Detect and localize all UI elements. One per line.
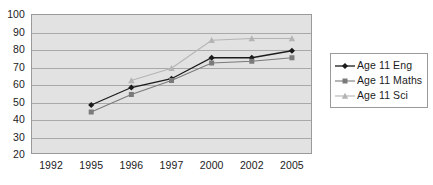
legend-item-label: Age 11 Sci <box>357 90 408 101</box>
data-point-marker <box>129 92 134 97</box>
series-line <box>91 58 292 112</box>
y-tick-label: 70 <box>13 61 25 72</box>
chart-legend: Age 11 EngAge 11 MathsAge 11 Sci <box>330 53 428 108</box>
y-tick-label: 30 <box>13 131 25 142</box>
x-tick-label: 1995 <box>79 160 103 171</box>
legend-item-label: Age 11 Maths <box>357 75 422 86</box>
series-line <box>91 51 292 105</box>
legend-item[interactable]: Age 11 Eng <box>333 58 424 73</box>
legend-diamond-icon <box>333 59 357 73</box>
data-point-marker <box>249 59 254 64</box>
data-point-marker <box>209 55 215 61</box>
data-point-marker <box>289 48 295 54</box>
x-tick-label: 1992 <box>39 160 63 171</box>
y-tick-label: 40 <box>13 114 25 125</box>
legend-triangle-icon <box>333 89 357 103</box>
data-point-marker <box>128 84 134 90</box>
data-point-marker <box>88 102 94 108</box>
y-tick-label: 80 <box>13 44 25 55</box>
y-tick-label: 20 <box>13 149 25 160</box>
legend-item[interactable]: Age 11 Sci <box>333 88 424 103</box>
series-layer <box>31 14 312 154</box>
x-tick-label: 2005 <box>280 160 304 171</box>
data-point-marker <box>169 78 174 83</box>
x-tick-label: 1997 <box>160 160 184 171</box>
y-tick-label: 60 <box>13 79 25 90</box>
legend-item-label: Age 11 Eng <box>357 60 412 71</box>
legend-square-icon <box>333 74 357 88</box>
x-tick-label: 1996 <box>119 160 143 171</box>
legend-item[interactable]: Age 11 Maths <box>333 73 424 88</box>
chart-screenshot: 1009080706050403020 19921995199619972000… <box>0 0 433 185</box>
data-point-marker <box>89 110 94 115</box>
data-point-marker <box>289 55 294 60</box>
x-axis: 1992199519961997200020022005 <box>31 160 312 176</box>
data-point-marker <box>168 65 174 71</box>
y-axis: 1009080706050403020 <box>0 14 28 154</box>
y-tick-label: 100 <box>7 9 25 20</box>
x-tick-label: 2002 <box>240 160 264 171</box>
y-tick-label: 50 <box>13 96 25 107</box>
x-tick-label: 2000 <box>200 160 224 171</box>
y-tick-label: 90 <box>13 26 25 37</box>
data-point-marker <box>209 61 214 66</box>
